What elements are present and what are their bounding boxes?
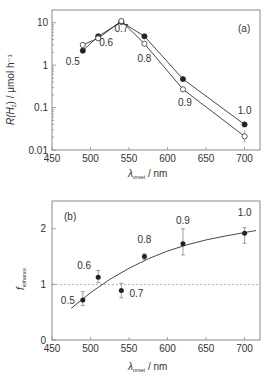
open-data-point [80,42,85,47]
panel-b-ylabel: fenhance [15,268,27,290]
point-label: 0.5 [66,56,80,67]
fit-curve [71,231,256,309]
data-point [96,275,101,280]
x-tick-label: 700 [236,153,253,164]
panel-a-series: 0.50.60.70.80.91.0 [66,18,252,142]
x-tick-label: 550 [121,343,138,354]
x-tick-label: 500 [82,153,99,164]
point-label: 0.8 [137,234,151,245]
x-tick-label: 700 [236,343,253,354]
data-point [80,297,85,302]
data-point [142,254,147,259]
y-tick-label: 10 [37,17,49,28]
point-label: 1.0 [238,105,252,116]
filled-data-point [242,122,247,127]
data-point [242,231,247,236]
panel-b-series: 0.50.60.70.80.91.0 [52,207,260,308]
x-tick-label: 450 [44,343,61,354]
point-label: 0.6 [99,37,113,48]
data-point [180,241,185,246]
x-tick-label: 600 [159,343,176,354]
open-data-point [142,41,147,46]
x-tick-label: 600 [159,153,176,164]
point-label: 0.8 [137,53,151,64]
filled-data-point [80,48,85,53]
point-label: 0.7 [129,288,143,299]
y-tick-label: 2 [40,223,46,234]
panel-a-label: (a) [238,23,250,34]
panel-b-xlabel: λonset / nm [127,361,167,373]
point-label: 0.9 [178,97,192,108]
y-tick-label: 0.1 [34,102,48,113]
y-tick-label: 1 [42,60,48,71]
data-point [119,288,124,293]
panel-b-chart: 450500550600650700012 0.50.60.70.80.91.0… [15,201,260,373]
open-data-point [180,87,185,92]
point-label: 0.6 [77,260,91,271]
panel-a-frame [52,10,260,150]
open-data-point [242,134,247,139]
y-tick-label: 1 [40,279,46,290]
panel-a-ticks: 4505005506006507000.010.1110 [29,17,254,164]
panel-a-chart: 4505005506006507000.010.1110 0.50.60.70.… [5,10,260,180]
panel-b-label: (b) [64,211,76,222]
figure: 4505005506006507000.010.1110 0.50.60.70.… [0,0,266,381]
y-tick-label: 0 [40,335,46,346]
point-label: 0.5 [61,295,75,306]
x-tick-label: 500 [82,343,99,354]
y-tick-label: 0.01 [29,145,49,156]
x-tick-label: 650 [198,343,215,354]
x-tick-label: 550 [121,153,138,164]
point-label: 0.9 [176,215,190,226]
filled-data-point [180,76,185,81]
x-tick-label: 650 [198,153,215,164]
panel-a-xlabel: λonset / nm [127,168,167,180]
point-label: 0.7 [114,23,128,34]
point-label: 1.0 [238,207,252,218]
panel-a-ylabel: R(H2) / μmol h⁻¹ [5,54,17,125]
filled-data-point [142,34,147,39]
